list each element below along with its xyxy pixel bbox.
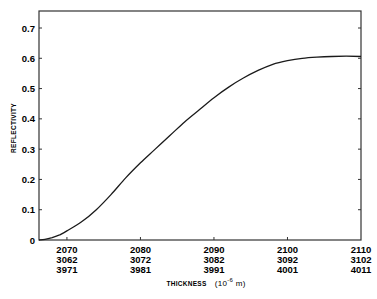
- x-tick-label: 3981: [130, 264, 152, 275]
- y-tick-label: 0.1: [22, 204, 36, 215]
- x-tick-label: 3991: [203, 264, 225, 275]
- y-tick-label: 0.4: [22, 113, 36, 124]
- x-axis-label-text: THICKNESS: [166, 280, 207, 287]
- x-tick-label: 4011: [351, 264, 372, 275]
- y-axis-label: REFLECTIVITY: [10, 103, 17, 153]
- x-axis-unit: (10: [215, 279, 228, 288]
- x-axis-ticks: 2070306239712080307239812090308239912100…: [56, 237, 372, 275]
- y-tick-label: 0.6: [22, 53, 35, 64]
- x-axis-unit-tail: m): [233, 279, 245, 288]
- reflectivity-chart: 00.10.20.30.40.50.60.7 20703062397120803…: [0, 0, 377, 299]
- x-tick-label: 3971: [56, 264, 78, 275]
- y-axis-ticks: 00.10.20.30.40.50.60.7: [22, 23, 361, 246]
- y-tick-label: 0.5: [22, 83, 36, 94]
- y-tick-label: 0.7: [22, 23, 35, 34]
- reflectivity-curve: [39, 56, 361, 240]
- y-tick-label: 0: [30, 235, 35, 246]
- y-tick-label: 0.3: [22, 144, 35, 155]
- plot-frame: [39, 11, 361, 240]
- x-tick-label: 4001: [277, 264, 299, 275]
- x-axis-label: THICKNESS (10-6 m): [166, 277, 245, 288]
- y-tick-label: 0.2: [22, 174, 35, 185]
